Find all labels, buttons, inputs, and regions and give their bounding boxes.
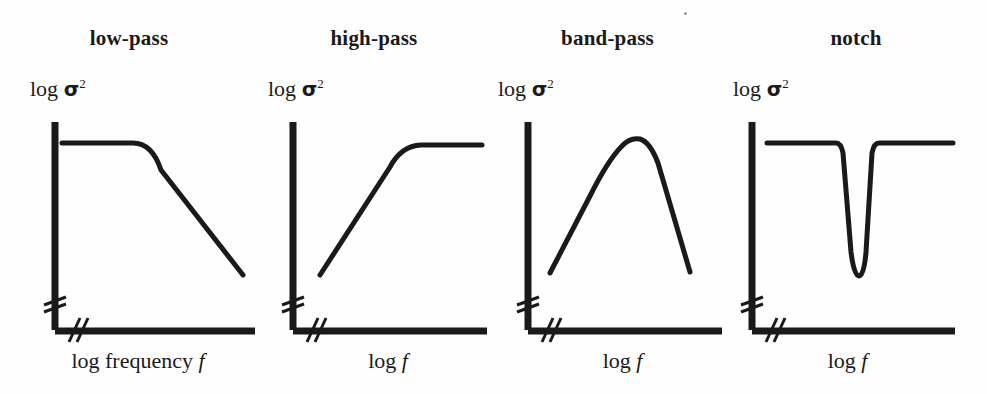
panel-high-pass: high-pass log σ2 log f bbox=[258, 0, 490, 394]
curve-notch bbox=[767, 143, 953, 276]
frequency-symbol: f bbox=[198, 348, 204, 373]
plot-area-high-pass bbox=[258, 0, 490, 394]
curve-low-pass bbox=[62, 143, 243, 275]
x-axis-label-notch: log f bbox=[745, 348, 950, 374]
plot-area-low-pass bbox=[0, 0, 258, 394]
filter-types-figure: low-pass log σ2 log frequency f high-pas… bbox=[0, 0, 987, 394]
x-axis-label-low-pass: log frequency f bbox=[18, 348, 258, 374]
x-axis-label-band-pass: log f bbox=[520, 348, 725, 374]
curve-band-pass bbox=[550, 139, 690, 273]
panel-notch: notch log σ2 log f bbox=[725, 0, 987, 394]
frequency-symbol: f bbox=[636, 348, 642, 373]
frequency-symbol: f bbox=[402, 348, 408, 373]
plot-area-notch bbox=[725, 0, 987, 394]
x-axis-label-high-pass: log f bbox=[288, 348, 488, 374]
frequency-symbol: f bbox=[861, 348, 867, 373]
curve-high-pass bbox=[320, 145, 482, 275]
panel-band-pass: band-pass log σ2 log f bbox=[490, 0, 725, 394]
plot-area-band-pass bbox=[490, 0, 725, 394]
panel-low-pass: low-pass log σ2 log frequency f bbox=[0, 0, 258, 394]
